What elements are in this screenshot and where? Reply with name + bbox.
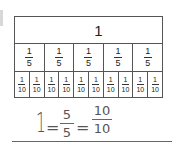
- tenth-cell: 110: [15, 72, 30, 97]
- fraction: 110: [107, 76, 115, 93]
- hw-whole: 1: [36, 108, 46, 138]
- handwritten-equation: 1 = 5 5 = 10 10: [36, 104, 146, 140]
- fraction-bar: [152, 84, 159, 85]
- tenth-cell: 110: [30, 72, 45, 97]
- tenth-cell: 110: [74, 72, 89, 97]
- fraction: 110: [122, 76, 130, 93]
- fraction: 15: [84, 47, 92, 68]
- numerator: 1: [116, 47, 121, 56]
- fifth-cell: 15: [74, 44, 104, 71]
- whole-label: 1: [94, 22, 102, 39]
- denominator: 5: [116, 59, 121, 68]
- denominator: 10: [107, 86, 115, 93]
- fraction-bar: [48, 84, 55, 85]
- fraction: 15: [114, 47, 122, 68]
- fraction: 110: [151, 76, 159, 93]
- fraction: 110: [18, 76, 26, 93]
- numerator: 1: [27, 47, 32, 56]
- fraction: 110: [62, 76, 70, 93]
- whole-row: 1: [15, 17, 162, 44]
- numerator: 1: [145, 47, 150, 56]
- numerator: 1: [50, 76, 54, 83]
- fraction-bar: [33, 84, 40, 85]
- fraction-strip: 1 15 15 15 15 15 110 110 110 110 110 110…: [14, 16, 163, 98]
- denominator: 5: [86, 59, 91, 68]
- fraction-bar: [78, 84, 85, 85]
- numerator: 1: [86, 47, 91, 56]
- fraction-bar: [92, 84, 99, 85]
- denominator: 5: [27, 59, 32, 68]
- denominator: 10: [77, 86, 85, 93]
- tenth-cell: 110: [119, 72, 134, 97]
- tenth-cell: 110: [45, 72, 60, 97]
- numerator: 1: [153, 76, 157, 83]
- denominator: 10: [33, 86, 41, 93]
- tenth-cell: 110: [59, 72, 74, 97]
- hw-numerator: 5: [63, 108, 71, 121]
- hw-fraction-bar: [92, 119, 112, 120]
- margin-mark: [0, 10, 3, 26]
- fraction-bar: [137, 84, 144, 85]
- hw-equals-sign: =: [46, 118, 59, 137]
- hw-fraction-fifths: 5 5: [60, 108, 74, 139]
- numerator: 1: [138, 76, 142, 83]
- denominator: 10: [136, 86, 144, 93]
- fraction: 110: [48, 76, 56, 93]
- fraction: 15: [25, 47, 33, 68]
- denominator: 10: [18, 86, 26, 93]
- fraction: 110: [77, 76, 85, 93]
- hw-denominator: 10: [94, 122, 111, 135]
- fifth-cell: 15: [45, 44, 75, 71]
- hw-fraction-bar: [60, 123, 74, 124]
- numerator: 1: [56, 47, 61, 56]
- hw-denominator: 5: [63, 126, 71, 139]
- fraction: 110: [136, 76, 144, 93]
- fraction: 15: [55, 47, 63, 68]
- numerator: 1: [35, 76, 39, 83]
- numerator: 1: [109, 76, 113, 83]
- denominator: 10: [151, 86, 159, 93]
- fraction: 15: [144, 47, 152, 68]
- denominator: 5: [145, 59, 150, 68]
- tenth-cell: 110: [104, 72, 119, 97]
- denominator: 10: [92, 86, 100, 93]
- fraction-bar: [63, 84, 70, 85]
- fifths-row: 15 15 15 15 15: [15, 44, 162, 72]
- hw-numerator: 10: [94, 104, 111, 117]
- denominator: 10: [48, 86, 56, 93]
- fifth-cell: 15: [104, 44, 134, 71]
- numerator: 1: [94, 76, 98, 83]
- fifth-cell: 15: [15, 44, 45, 71]
- numerator: 1: [20, 76, 24, 83]
- fifth-cell: 15: [133, 44, 162, 71]
- numerator: 1: [124, 76, 128, 83]
- fraction: 110: [92, 76, 100, 93]
- denominator: 5: [56, 59, 61, 68]
- denominator: 10: [62, 86, 70, 93]
- tenth-cell: 110: [89, 72, 104, 97]
- hw-fraction-tenths: 10 10: [92, 104, 112, 135]
- denominator: 10: [122, 86, 130, 93]
- tenth-cell: 110: [133, 72, 148, 97]
- answer-line: [12, 141, 172, 142]
- fraction: 110: [33, 76, 41, 93]
- tenth-cell: 110: [148, 72, 162, 97]
- numerator: 1: [79, 76, 83, 83]
- fraction-bar: [107, 84, 114, 85]
- fraction-bar: [18, 84, 25, 85]
- fraction-bar: [122, 84, 129, 85]
- hw-equals-sign: =: [76, 118, 89, 137]
- numerator: 1: [64, 76, 68, 83]
- tenths-row: 110 110 110 110 110 110 110 110 110 110: [15, 72, 162, 97]
